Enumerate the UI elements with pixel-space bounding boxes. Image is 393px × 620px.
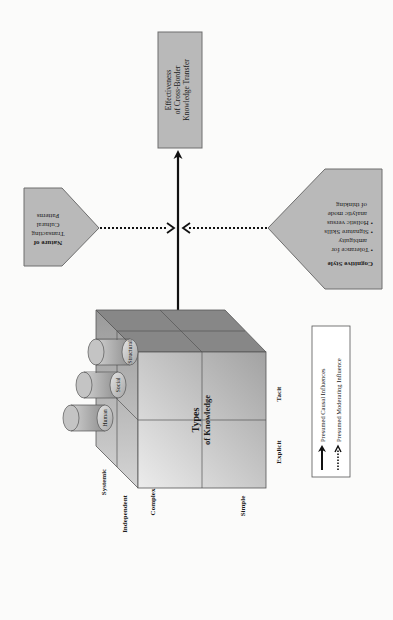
outcome-line-3: Knowledge Transfer bbox=[182, 59, 191, 121]
cylinder-social-label: Social bbox=[115, 377, 121, 392]
cognitive-bullet-3a: • Holistic versus bbox=[327, 219, 373, 227]
cognitive-bullet-2: • Signature Skills bbox=[324, 228, 373, 236]
cognitive-bullet-3c: of thinking bbox=[336, 201, 367, 209]
outcome-line-2: of Cross-Border bbox=[173, 65, 182, 114]
cognitive-bullet-1a: • Tolerance for bbox=[331, 246, 373, 254]
cognitive-style-box: Cognitive Style • Tolerance for ambiguit… bbox=[268, 169, 382, 289]
cognitive-title: Cognitive Style bbox=[328, 260, 373, 268]
axis-label-tacit: Tacit bbox=[275, 386, 283, 402]
cylinder-human: Human bbox=[63, 405, 113, 431]
legend-causal-label: Presumed Causal Influences bbox=[319, 368, 326, 442]
arrowhead-left-icon bbox=[183, 223, 190, 233]
cylinder-structural-label: Structural bbox=[127, 340, 133, 364]
cultural-line-4: Patterns bbox=[36, 212, 59, 220]
cube-label-line-1: Types bbox=[190, 407, 201, 432]
legend-moderating-label: Presumed Moderating Influence bbox=[335, 358, 342, 442]
causal-arrow bbox=[174, 150, 183, 326]
arrowhead-right-icon bbox=[167, 223, 174, 233]
legend: Presumed Causal Influences Presumed Mode… bbox=[312, 326, 350, 477]
knowledge-transfer-diagram: Effectiveness of Cross-Border Knowledge … bbox=[0, 0, 393, 620]
outcome-line-1: Effectiveness bbox=[164, 70, 173, 110]
cube-label-line-2: of Knowledge bbox=[202, 395, 212, 445]
knowledge-cube: Types of Knowledge Structural Social bbox=[63, 310, 283, 533]
cylinder-social: Social bbox=[76, 372, 126, 398]
axis-label-complex: Complex bbox=[149, 488, 157, 515]
outcome-box: Effectiveness of Cross-Border Knowledge … bbox=[158, 32, 202, 148]
cultural-patterns-box: Nature of Transacting Cultural Patterns bbox=[24, 188, 99, 266]
moderating-arrow-right bbox=[183, 223, 267, 233]
cylinder-structural: Structural bbox=[88, 339, 138, 365]
moderating-arrow-left bbox=[100, 223, 174, 233]
axis-label-independent: Independent bbox=[121, 494, 129, 532]
axis-label-explicit: Explicit bbox=[275, 440, 283, 464]
cultural-line-1: Nature of bbox=[33, 239, 62, 247]
cylinder-human-label: Human bbox=[102, 409, 108, 427]
axis-label-simple: Simple bbox=[239, 496, 247, 517]
cultural-line-2: Transacting bbox=[31, 230, 64, 238]
axis-label-systemic: Systemic bbox=[100, 469, 108, 495]
cultural-line-3: Cultural bbox=[36, 221, 59, 229]
cognitive-bullet-1b: ambiguity bbox=[338, 237, 367, 245]
cognitive-bullet-3b: analytic mode bbox=[328, 210, 367, 218]
